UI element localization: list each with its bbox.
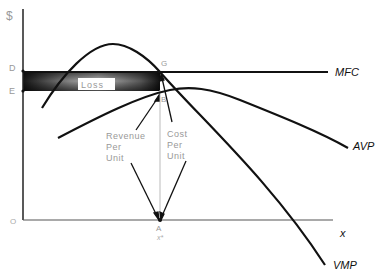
revenue-per-unit-label: Revenue Per Unit — [106, 131, 146, 163]
svg-text:Per: Per — [106, 142, 122, 152]
point-a-dot — [158, 218, 162, 222]
price-label-d: D — [9, 63, 16, 73]
avp-label: AVP — [352, 140, 375, 152]
svg-text:Unit: Unit — [106, 153, 124, 163]
revenue-arrow — [131, 95, 159, 220]
svg-text:Cost: Cost — [167, 129, 188, 139]
cost-per-unit-label: Cost Per Unit — [167, 129, 188, 161]
mfc-label: MFC — [335, 66, 359, 78]
point-g-label: G — [161, 59, 167, 68]
svg-text:Unit: Unit — [167, 151, 185, 161]
point-a-label: A — [156, 224, 162, 233]
point-e-dot — [21, 89, 24, 92]
y-axis-label: $ — [6, 9, 13, 23]
price-label-e: E — [9, 86, 15, 96]
economics-diagram: $ D E O Loss G B A x* x MFC AVP VMP Reve… — [0, 0, 383, 280]
point-b-label: B — [161, 95, 166, 104]
svg-text:Revenue: Revenue — [106, 131, 146, 141]
svg-text:Per: Per — [167, 140, 183, 150]
x-axis-label: x — [339, 227, 346, 239]
origin-label: O — [10, 217, 16, 226]
vmp-label: VMP — [333, 259, 358, 271]
x-star-label: x* — [156, 234, 164, 241]
loss-label: Loss — [81, 80, 104, 90]
